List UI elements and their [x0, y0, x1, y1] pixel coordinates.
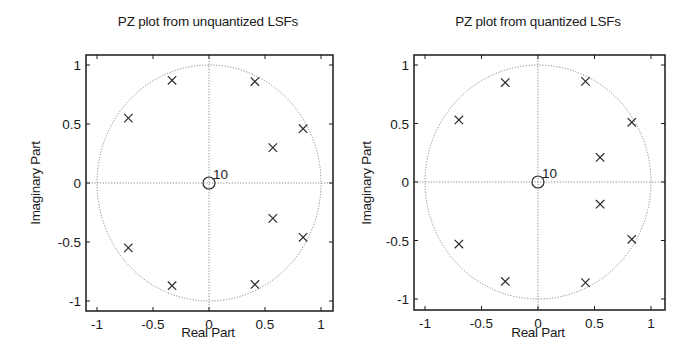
pole-marker — [581, 77, 589, 85]
pole-marker — [501, 277, 509, 285]
pole-marker — [581, 278, 589, 286]
y-tick-label: -0.5 — [386, 234, 409, 249]
zero-multiplicity-label: 10 — [542, 166, 557, 181]
y-tick-label: 1 — [401, 58, 409, 73]
pole-marker — [628, 118, 636, 126]
y-tick-label: 0.5 — [390, 117, 409, 132]
x-tick-label: -1 — [419, 316, 431, 331]
x-tick-label: 1 — [647, 316, 655, 331]
y-tick-label: 0 — [401, 175, 409, 190]
x-tick-label: -0.5 — [470, 316, 493, 331]
x-tick-label: 0 — [534, 316, 542, 331]
pole-marker — [596, 200, 604, 208]
pole-marker — [501, 78, 509, 86]
pole-marker — [628, 235, 636, 243]
pole-marker — [455, 116, 463, 124]
y-tick-label: -1 — [397, 292, 409, 307]
pole-marker — [455, 240, 463, 248]
plot-area: -1-0.500.51-1-0.500.5110 — [0, 0, 681, 364]
x-tick-label: 0.5 — [585, 316, 604, 331]
pole-marker — [596, 153, 604, 161]
